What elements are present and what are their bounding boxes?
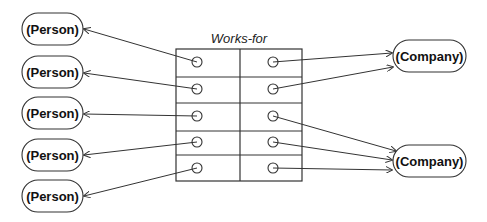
table-title: Works-for (211, 31, 268, 46)
person-node-label: (Person) (26, 189, 79, 204)
pointer-arrow (84, 29, 197, 62)
person-node: (Person) (22, 97, 83, 129)
person-node: (Person) (22, 180, 83, 212)
person-node: (Person) (22, 139, 83, 171)
pointer-arrow (84, 168, 197, 196)
person-node-label: (Person) (26, 106, 79, 121)
works-for-diagram: Works-for (Person)(Person)(Person)(Perso… (0, 0, 487, 222)
person-node: (Person) (22, 56, 83, 88)
company-node-label: (Company) (396, 154, 464, 169)
company-node-label: (Company) (396, 49, 464, 64)
person-nodes: (Person)(Person)(Person)(Person)(Person) (22, 13, 83, 212)
company-nodes: (Company)(Company) (393, 40, 466, 177)
person-node-label: (Person) (26, 148, 79, 163)
person-node-label: (Person) (26, 65, 79, 80)
company-node: (Company) (393, 40, 466, 72)
person-node-label: (Person) (26, 22, 79, 37)
person-node: (Person) (22, 13, 83, 45)
company-node: (Company) (393, 145, 466, 177)
works-for-table (176, 49, 302, 181)
